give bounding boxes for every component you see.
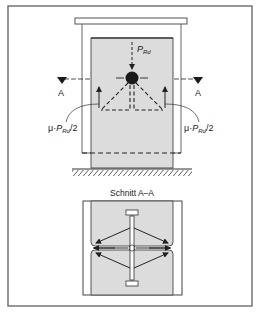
reaction-label-right: μ·PRd/2 xyxy=(184,123,213,134)
section-title: Schnitt A–A xyxy=(110,188,154,198)
ground-hatch xyxy=(72,170,192,176)
section-view: Schnitt A–A xyxy=(83,188,182,295)
anchor-load-diagram: PRd A A μ·PRd/2 μ·PRd/2 Schnitt A–A xyxy=(0,0,259,316)
section-marker-right-label: A xyxy=(195,88,201,98)
elevation-view: PRd A A μ·PRd/2 μ·PRd/2 xyxy=(48,18,213,176)
section-marker-right-icon xyxy=(193,77,203,84)
anchor-ball xyxy=(126,72,139,85)
bottom-plate xyxy=(126,281,138,286)
top-plate xyxy=(126,210,138,215)
section-marker-left-label: A xyxy=(58,88,64,98)
section-marker-left-icon xyxy=(57,77,67,84)
anchor-bar xyxy=(130,216,134,280)
top-cap xyxy=(75,18,187,24)
reaction-label-left: μ·PRd/2 xyxy=(48,123,77,134)
